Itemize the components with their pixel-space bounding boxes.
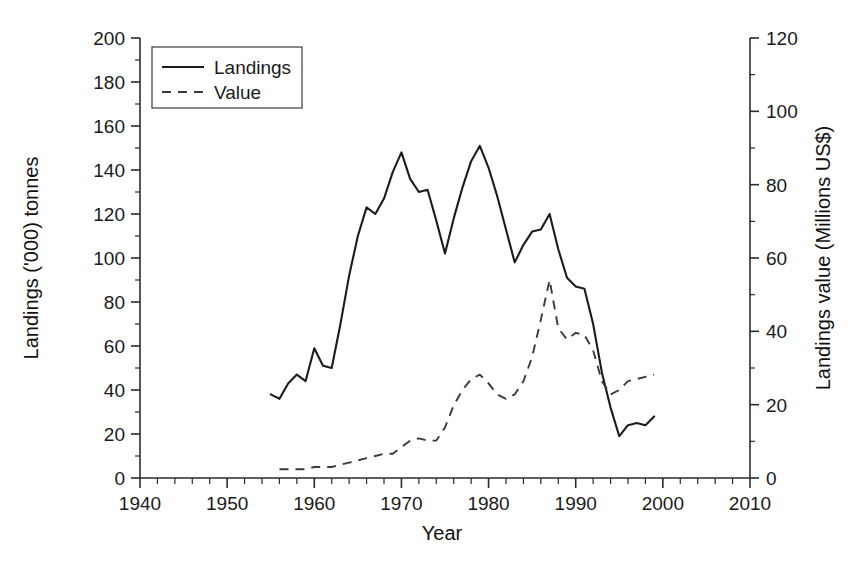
y-axis-right-tick-label: 120 bbox=[766, 28, 798, 49]
y-axis-tick-label: 40 bbox=[104, 380, 125, 401]
line-chart-canvas: 020406080100120140160180200 020406080100… bbox=[0, 0, 864, 566]
y-axis-tick-label: 20 bbox=[104, 424, 125, 445]
x-axis-tick-label: 2000 bbox=[642, 493, 684, 514]
y-axis-right: 020406080100120 bbox=[750, 28, 798, 489]
y-axis-tick-label: 100 bbox=[93, 248, 125, 269]
x-axis-tick-label: 1990 bbox=[555, 493, 597, 514]
y-axis-right-tick-label: 60 bbox=[766, 248, 787, 269]
x-axis-tick-label: 2010 bbox=[729, 493, 771, 514]
legend-label-landings: Landings bbox=[214, 57, 291, 78]
y-axis-right-title: Landings value (Millions US$) bbox=[812, 126, 834, 391]
y-axis-tick-label: 0 bbox=[114, 468, 125, 489]
y-axis-right-tick-label: 40 bbox=[766, 321, 787, 342]
x-axis-tick-label: 1950 bbox=[206, 493, 248, 514]
chart-legend: LandingsValue bbox=[152, 47, 302, 108]
x-axis-tick-label: 1940 bbox=[119, 493, 161, 514]
series-line-landings bbox=[271, 146, 654, 436]
y-axis-title: Landings ('000) tonnes bbox=[20, 157, 42, 360]
y-axis-right-tick-label: 0 bbox=[766, 468, 777, 489]
y-axis-right-tick-label: 80 bbox=[766, 175, 787, 196]
x-axis-tick-label: 1980 bbox=[467, 493, 509, 514]
x-axis-title: Year bbox=[422, 522, 463, 544]
x-axis-tick-label: 1970 bbox=[380, 493, 422, 514]
x-axis-tick-label: 1960 bbox=[293, 493, 335, 514]
y-axis-tick-label: 160 bbox=[93, 116, 125, 137]
y-axis-right-tick-label: 20 bbox=[766, 395, 787, 416]
x-axis: 19401950196019701980199020002010 bbox=[119, 478, 771, 514]
y-axis-tick-label: 140 bbox=[93, 160, 125, 181]
series-line-value bbox=[279, 280, 654, 469]
y-axis-left: 020406080100120140160180200 bbox=[93, 28, 140, 489]
data-series-group bbox=[271, 146, 654, 469]
y-axis-tick-label: 60 bbox=[104, 336, 125, 357]
y-axis-tick-label: 180 bbox=[93, 72, 125, 93]
chart-figure: 020406080100120140160180200 020406080100… bbox=[0, 0, 864, 566]
y-axis-tick-label: 80 bbox=[104, 292, 125, 313]
y-axis-tick-label: 120 bbox=[93, 204, 125, 225]
y-axis-right-tick-label: 100 bbox=[766, 101, 798, 122]
legend-label-value: Value bbox=[214, 82, 261, 103]
y-axis-tick-label: 200 bbox=[93, 28, 125, 49]
